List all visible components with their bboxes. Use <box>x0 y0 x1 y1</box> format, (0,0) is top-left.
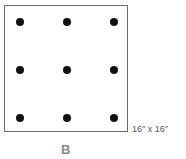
dot <box>16 18 24 26</box>
dot <box>63 18 71 26</box>
dot <box>110 114 118 122</box>
dimension-label: 16″ x 16″ <box>132 124 168 134</box>
figure-letter: B <box>61 142 70 157</box>
dot <box>16 66 24 74</box>
dot <box>110 66 118 74</box>
dot <box>110 18 118 26</box>
dot <box>16 114 24 122</box>
dot <box>63 114 71 122</box>
dot <box>63 66 71 74</box>
